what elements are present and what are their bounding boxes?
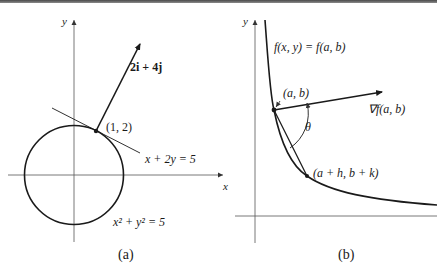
panel-a-caption: (a) <box>118 247 134 263</box>
vector-label: 2i + 4j <box>130 60 162 75</box>
point-1-2 <box>94 129 98 133</box>
gradient-vector-arrow <box>96 44 140 131</box>
point-1-2-label: (1, 2) <box>106 120 132 135</box>
point-a-b-pointer <box>276 101 280 107</box>
panel-a-x-axis-label: x <box>223 180 228 192</box>
level-curve-label: f(x, y) = f(a, b) <box>274 40 345 55</box>
diagram-canvas <box>0 0 437 273</box>
point-a-b-label: (a, b) <box>283 86 309 101</box>
point-a-b <box>272 108 277 113</box>
second-point-label: (a + h, b + k) <box>313 166 379 181</box>
angle-theta-label: θ <box>305 120 311 135</box>
point-a-h-b-k <box>305 174 309 178</box>
panel-b-caption: (b) <box>338 247 354 263</box>
secant-line <box>274 110 307 176</box>
tangent-line-label: x + 2y = 5 <box>145 152 196 167</box>
panel-a-y-axis-label: y <box>62 15 67 27</box>
circle-equation-label: x² + y² = 5 <box>113 215 165 230</box>
gradient-label: ∇f(a, b) <box>368 102 405 117</box>
panel-b-y-axis-label: y <box>243 15 248 27</box>
